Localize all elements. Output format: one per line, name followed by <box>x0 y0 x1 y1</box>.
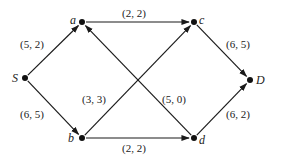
node-D-dot <box>247 77 253 83</box>
edge-label-S-a: (5, 2) <box>20 38 44 51</box>
node-label-D: D <box>255 73 265 87</box>
edge-label-b-c: (3, 3) <box>82 93 106 106</box>
node-d-dot <box>191 135 197 141</box>
edge-label-d-a: (5, 0) <box>162 93 186 106</box>
flow-network-diagram: (5, 2)(6, 5)(2, 2)(3, 3)(5, 0)(2, 2)(6, … <box>0 0 281 158</box>
edge-label-c-D: (6, 5) <box>226 38 250 51</box>
node-S-dot <box>22 75 28 81</box>
edge-S-to-a-arrow <box>28 26 79 76</box>
edge-label-a-c: (2, 2) <box>122 7 146 20</box>
node-a-dot <box>79 19 85 25</box>
node-label-a: a <box>70 13 76 27</box>
node-c-dot <box>191 19 197 25</box>
edge-labels-layer: (5, 2)(6, 5)(2, 2)(3, 3)(5, 0)(2, 2)(6, … <box>20 7 250 155</box>
edges-layer <box>28 22 247 138</box>
node-label-b: b <box>68 131 74 145</box>
edge-label-S-b: (6, 5) <box>20 108 44 121</box>
node-b-dot <box>79 135 85 141</box>
node-label-d: d <box>199 133 206 147</box>
edge-label-d-D: (6, 2) <box>226 108 250 121</box>
node-label-c: c <box>199 13 205 27</box>
node-label-S: S <box>12 71 18 85</box>
edge-label-b-d: (2, 2) <box>122 142 146 155</box>
edge-c-to-D-arrow <box>197 25 247 77</box>
